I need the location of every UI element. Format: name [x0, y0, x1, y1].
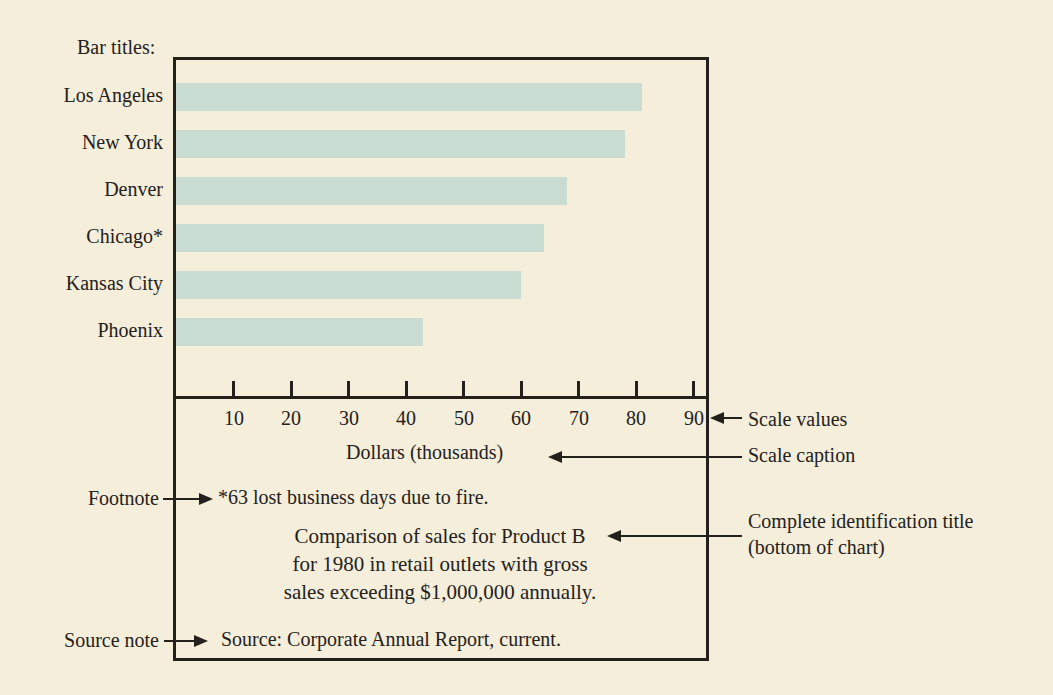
bar-title-los-angeles: Los Angeles [40, 84, 163, 107]
bar-title-denver: Denver [40, 178, 163, 201]
source-note-arrow-line [164, 640, 196, 642]
x-tick-label-20: 20 [269, 407, 313, 430]
bar-titles-label: Bar titles: [77, 36, 155, 58]
bar-title-kansas-city: Kansas City [40, 272, 163, 295]
x-tick-label-80: 80 [614, 407, 658, 430]
identification-title-annotation-label: Complete identification title [748, 510, 974, 532]
x-tick-10 [232, 381, 235, 396]
bar-title-new-york: New York [40, 131, 163, 154]
scale-caption-arrow-line [560, 456, 742, 458]
x-tick-90 [692, 381, 695, 396]
bar-kansas-city [176, 271, 521, 299]
x-tick-80 [635, 381, 638, 396]
x-tick-30 [347, 381, 350, 396]
source-note-arrow-right-icon [194, 635, 208, 647]
x-tick-label-50: 50 [442, 407, 486, 430]
x-tick-label-10: 10 [212, 407, 256, 430]
x-tick-60 [520, 381, 523, 396]
x-tick-70 [577, 381, 580, 396]
identification-title-annotation-sublabel: (bottom of chart) [748, 536, 885, 558]
chart-title: Comparison of sales for Product Bfor 198… [230, 522, 650, 606]
bar-phoenix [176, 318, 423, 346]
footnote-text: *63 lost business days due to fire. [218, 486, 489, 509]
annotated-bar-chart-figure: Bar titles: 102030405060708090 Dollars (… [0, 0, 1053, 695]
scale-values-arrow-line [722, 417, 742, 419]
scale-caption-annotation-label: Scale caption [748, 444, 855, 466]
chart-title-line-3: sales exceeding $1,000,000 annually. [230, 578, 650, 606]
chart-frame: 102030405060708090 Dollars (thousands) *… [173, 57, 709, 661]
footnote-arrow-line [163, 498, 201, 500]
x-tick-40 [405, 381, 408, 396]
bar-title-phoenix: Phoenix [40, 319, 163, 342]
bar-title-chicago: Chicago* [40, 225, 163, 248]
chart-title-line-2: for 1980 in retail outlets with gross [230, 550, 650, 578]
x-tick-label-70: 70 [557, 407, 601, 430]
chart-title-line-1: Comparison of sales for Product B [230, 522, 650, 550]
x-tick-20 [290, 381, 293, 396]
x-axis-line [176, 396, 706, 399]
scale-values-annotation-label: Scale values [748, 408, 847, 430]
source-note-annotation-label: Source note [30, 629, 159, 651]
source-note-text: Source: Corporate Annual Report, current… [221, 628, 561, 651]
x-tick-50 [462, 381, 465, 396]
footnote-annotation-label: Footnote [40, 487, 159, 509]
identification-title-arrow-line [619, 535, 742, 537]
x-tick-label-60: 60 [499, 407, 543, 430]
bar-los-angeles [176, 83, 642, 111]
x-tick-label-40: 40 [384, 407, 428, 430]
bar-denver [176, 177, 567, 205]
bar-chicago [176, 224, 544, 252]
footnote-arrow-right-icon [199, 493, 213, 505]
bar-new-york [176, 130, 625, 158]
x-axis-caption: Dollars (thousands) [346, 441, 503, 464]
x-tick-label-30: 30 [327, 407, 371, 430]
